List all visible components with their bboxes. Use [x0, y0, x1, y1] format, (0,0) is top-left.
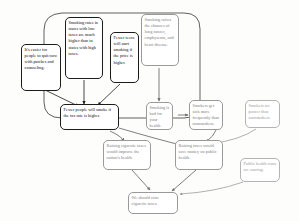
- node-smokers-poorer[interactable]: Smokers are poorer than nonsmokers.: [245, 100, 280, 128]
- node-fewer-teens-start[interactable]: Fewer teens will start smoking if the pr…: [110, 32, 139, 83]
- edge-save-to-conclusion: [172, 170, 196, 191]
- node-smoking-bad-for-health[interactable]: Smoking is bad for your health.: [146, 102, 173, 130]
- node-raising-taxes-save-money[interactable]: Raising taxes would save money on public…: [175, 140, 223, 170]
- node-raising-taxes-improve-health[interactable]: Raising cigarette taxes would improve th…: [103, 140, 151, 170]
- node-smoking-rates-low-tax-states[interactable]: Smoking rates in states with low taxes a…: [65, 17, 103, 79]
- node-fewer-people-will-smoke[interactable]: Fewer people will smoke if the tax rate …: [60, 104, 119, 130]
- node-main-conclusion[interactable]: We should raise cigarette taxes.: [128, 192, 178, 214]
- node-smoking-raises-chances[interactable]: Smoking raises the chances of lung cance…: [141, 14, 179, 66]
- argument-map-diagram: It's easier for people to quit now with …: [0, 0, 299, 221]
- edge-fewer-teens: [98, 84, 120, 105]
- node-smokers-sick-more[interactable]: Smokers get sick more frequently than no…: [189, 100, 223, 130]
- node-public-health-costs-soaring[interactable]: Public health costs are soaring.: [240, 158, 280, 182]
- edge-costs-to-conclusion: [180, 182, 243, 194]
- node-easier-to-quit[interactable]: It's easier for people to quit now with …: [21, 44, 61, 91]
- edge-improve-to-conclusion: [132, 170, 150, 190]
